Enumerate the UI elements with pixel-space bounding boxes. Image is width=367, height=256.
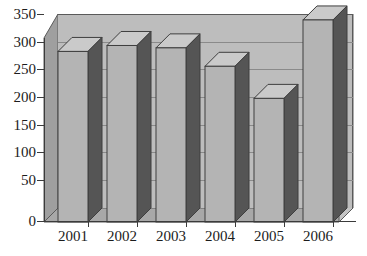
y-axis-label-300: 300 [2,35,36,50]
y-tickmark-350 [37,14,44,15]
bar-2004-front [205,66,235,222]
y-axis-label-0: 0 [2,214,36,229]
y-tickmark-200 [37,97,44,98]
bar-2003-side [186,34,200,222]
bar-chart: 350 300 250 200 150 100 50 0 2001 2002 2… [0,0,367,256]
y-tickmark-0 [37,221,44,222]
bar-2002-side [137,31,151,222]
y-axis-labels: 350 300 250 200 150 100 50 0 [0,0,36,256]
bar-2002-front [107,45,137,222]
y-tickmark-50 [37,180,44,181]
bar-2001 [58,37,102,222]
bar-2003-front [156,48,186,222]
bar-2004-side [235,52,249,222]
y-axis-label-150: 150 [2,118,36,133]
y-axis-label-100: 100 [2,145,36,160]
y-tickmark-100 [37,152,44,153]
x-tickmark-2002 [137,222,138,227]
bar-2001-side [88,37,102,222]
y-axis-label-250: 250 [2,62,36,77]
bar-2005-side [284,84,298,222]
bar-2003 [156,34,200,222]
x-tickmark-2003 [186,222,187,227]
y-tickmark-250 [37,69,44,70]
y-axis-label-200: 200 [2,90,36,105]
x-axis-line [44,221,356,222]
bar-2005-front [254,98,284,222]
bar-2002 [107,31,151,222]
x-tickmark-2005 [284,222,285,227]
bar-2006 [303,6,347,222]
bar-series [0,0,367,256]
bar-2004 [205,52,249,222]
x-axis-label-2006: 2006 [288,228,348,244]
y-axis-label-50: 50 [2,173,36,188]
y-axis-label-350: 350 [2,7,36,22]
y-tickmark-150 [37,125,44,126]
bar-2006-side [333,6,347,222]
x-tickmark-2001 [88,222,89,227]
x-tickmark-2006 [333,222,334,227]
y-axis-line [44,38,45,222]
bar-2001-front [58,51,88,222]
y-tickmark-300 [37,42,44,43]
bar-2005 [254,84,298,222]
bar-2006-front [303,20,333,222]
x-tickmark-2004 [235,222,236,227]
